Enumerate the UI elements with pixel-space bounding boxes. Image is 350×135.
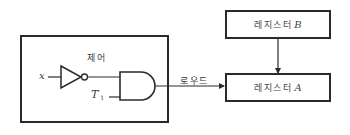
control-label: 제어 <box>87 53 106 63</box>
register-a-label: 레지스터 <box>254 81 292 94</box>
register-a-box: 레지스터A <box>225 73 331 102</box>
and-gate-icon <box>120 72 155 100</box>
t1-input-label: T1 <box>91 90 104 103</box>
register-b-box: 레지스터B <box>225 10 331 39</box>
t-subscript: 1 <box>100 94 104 101</box>
x-input-label: x <box>39 71 45 81</box>
inverter-gate-icon <box>61 66 88 88</box>
t-label-text: T <box>91 88 98 101</box>
register-b-symbol: B <box>294 19 301 30</box>
diagram-canvas: 제어 x T1 로우드 레지스터B 레지스터A <box>0 0 350 135</box>
load-signal-label: 로우드 <box>180 76 209 86</box>
register-a-symbol: A <box>294 82 301 93</box>
register-b-label: 레지스터 <box>254 18 292 31</box>
